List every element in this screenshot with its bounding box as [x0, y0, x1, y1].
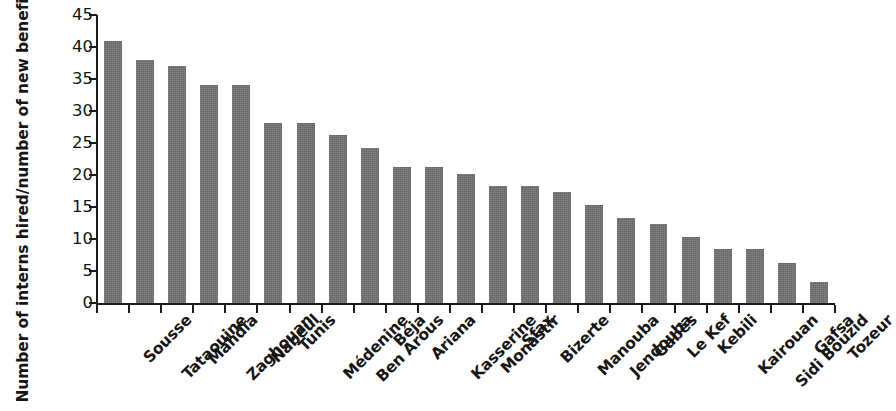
y-axis-title-container: Number of interns hired/number of new be… [0, 0, 48, 310]
bar [810, 282, 828, 303]
bar [297, 123, 315, 303]
y-axis-tick-label: 20 [63, 165, 93, 185]
bar [168, 66, 186, 303]
bar [746, 249, 764, 303]
bar [136, 60, 154, 303]
bar [232, 85, 250, 303]
bar [361, 148, 379, 303]
bar [778, 263, 796, 303]
bar [714, 249, 732, 303]
bar [425, 167, 443, 303]
bar [264, 123, 282, 303]
y-axis-tick-label: 45 [63, 5, 93, 25]
bar [617, 218, 635, 303]
bar [393, 167, 411, 303]
bar [457, 174, 475, 303]
bar [489, 186, 507, 303]
x-axis-category-label: Sousse [140, 311, 196, 367]
y-axis-tick-label: 35 [63, 69, 93, 89]
y-axis-tick-label: 25 [63, 133, 93, 153]
bar [553, 192, 571, 303]
bar [329, 135, 347, 303]
bar [200, 85, 218, 303]
bar [585, 205, 603, 303]
y-axis-tick-label: 10 [63, 229, 93, 249]
plot-area: 051015202530354045 [97, 15, 835, 303]
y-axis-title: Number of interns hired/number of new be… [14, 0, 33, 403]
y-axis-tick-label: 40 [63, 37, 93, 57]
bar [650, 224, 668, 303]
x-axis-category-labels: SousseTataouineMahdiaZaghouanNabeulTunis… [97, 305, 835, 411]
y-axis-tick-label: 0 [63, 293, 93, 313]
y-axis-tick-label: 15 [63, 197, 93, 217]
y-axis-tick-label: 30 [63, 101, 93, 121]
bar [521, 186, 539, 303]
bar [682, 237, 700, 303]
bar [104, 41, 122, 303]
y-axis-tick-label: 5 [63, 261, 93, 281]
y-axis-line [96, 15, 98, 304]
